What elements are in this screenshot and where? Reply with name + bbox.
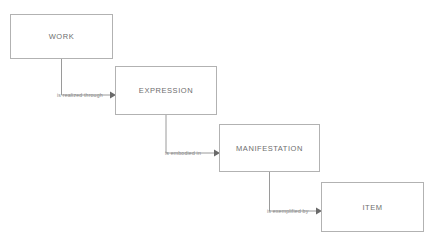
entity-label-work: WORK xyxy=(49,32,75,41)
relation-label-is-embodied-in: is embodied in xyxy=(165,150,201,156)
entity-label-expression: EXPRESSION xyxy=(139,86,193,95)
entity-label-manifestation: MANIFESTATION xyxy=(236,144,303,153)
connector-path-manifestation-item xyxy=(270,172,317,211)
entity-box-expression[interactable]: EXPRESSION xyxy=(115,66,217,115)
connector-path-work-expression xyxy=(62,59,111,95)
relation-label-is-exemplified-by: is exemplified by xyxy=(267,208,308,214)
entity-box-item[interactable]: ITEM xyxy=(321,182,424,232)
diagram-canvas: WORK EXPRESSION MANIFESTATION ITEM is re… xyxy=(0,0,434,245)
relation-label-is-realized-through: is realized through xyxy=(57,92,103,98)
entity-box-work[interactable]: WORK xyxy=(10,14,113,59)
entity-box-manifestation[interactable]: MANIFESTATION xyxy=(219,124,320,172)
connector-path-expression-manifestation xyxy=(166,115,214,153)
entity-label-item: ITEM xyxy=(362,203,382,212)
